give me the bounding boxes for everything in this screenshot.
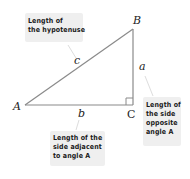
vertex-label-b: B [133,15,141,26]
callout-adjacent-line-3: to angle A [53,152,102,161]
callout-opposite-line-4: angle A [146,128,178,137]
right-angle-marker [126,98,133,105]
callout-opposite-line-3: opposite [146,119,178,128]
callout-opposite-line-2: the side [146,110,178,119]
callout-adjacent-line-2: side adjacent [53,143,102,152]
side-label-b: b [78,108,85,119]
callout-opposite-line-1: Length of [146,101,178,110]
adjacent-leader-line [76,120,79,130]
callout-opposite: Length of the side opposite angle A [143,97,181,146]
callout-hypotenuse-line-1: Length of [28,17,80,26]
side-label-c: c [74,55,80,66]
right-triangle-diagram: A B C c a b Length of the hypotenuse Len… [0,0,190,179]
callout-hypotenuse: Length of the hypotenuse [25,13,83,42]
vertex-label-c: C [127,109,135,120]
vertex-label-a: A [13,101,21,112]
callout-adjacent-line-1: Length of the [53,134,102,143]
callout-adjacent: Length of the side adjacent to angle A [50,131,105,166]
opposite-leader-line [145,76,153,96]
side-label-a: a [139,61,146,72]
callout-hypotenuse-line-2: the hypotenuse [28,26,80,35]
